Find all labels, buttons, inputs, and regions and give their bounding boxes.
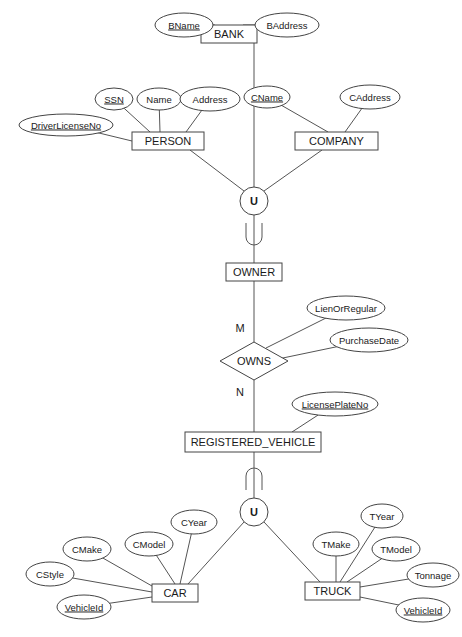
attribute-label: CYear: [181, 517, 207, 528]
union_vehicle[interactable]: U: [240, 498, 268, 526]
attribute-address[interactable]: Address: [180, 87, 240, 111]
attribute-tmake[interactable]: TMake: [313, 532, 359, 556]
cardinality-m: M: [235, 322, 244, 334]
attribute-label: CModel: [133, 539, 166, 550]
key-attribute-label: VehicleId: [404, 605, 443, 616]
attribute-licenseplateno[interactable]: LicensePlateNo: [292, 392, 378, 416]
attribute-cname[interactable]: CName: [244, 86, 290, 108]
entity-label: BANK: [214, 28, 245, 40]
entity-car[interactable]: CAR: [152, 584, 198, 602]
attribute-caddress[interactable]: CAddress: [340, 85, 400, 109]
attribute-vehicleid_truck[interactable]: VehicleId: [396, 598, 450, 622]
attribute-cmodel[interactable]: CModel: [125, 532, 173, 556]
attribute-label: LienOrRegular: [315, 303, 377, 314]
attribute-label: TModel: [380, 544, 412, 555]
entity-company[interactable]: COMPANY: [295, 132, 378, 150]
attribute-lienorregular[interactable]: LienOrRegular: [307, 296, 385, 320]
entity-label: COMPANY: [309, 135, 364, 147]
cardinality-n: N: [236, 386, 244, 398]
attribute-label: Tonnage: [415, 570, 451, 581]
relationship-owns[interactable]: OWNS: [220, 342, 288, 380]
er-diagram-canvas: BANKPERSONCOMPANYOWNERREGISTERED_VEHICLE…: [0, 0, 462, 637]
attribute-bname[interactable]: BName: [155, 13, 213, 37]
attribute-vehicleid_car[interactable]: VehicleId: [57, 595, 111, 619]
entity-label: OWNER: [233, 266, 275, 278]
connector-line: [264, 150, 322, 191]
attribute-label: PurchaseDate: [339, 335, 399, 346]
attribute-label: CAddress: [349, 92, 391, 103]
union-symbol: U: [250, 506, 258, 518]
attribute-driverlicenseno[interactable]: DriverLicenseNo: [19, 114, 113, 136]
union-symbol: U: [250, 195, 258, 207]
attribute-label: CMake: [72, 544, 102, 555]
attribute-cyear[interactable]: CYear: [171, 510, 217, 534]
attribute-tonnage[interactable]: Tonnage: [407, 563, 459, 587]
entity-label: PERSON: [145, 135, 192, 147]
attribute-cmake[interactable]: CMake: [63, 537, 111, 561]
attribute-label: BAddress: [266, 20, 307, 31]
key-attribute-label: VehicleId: [65, 602, 104, 613]
attribute-label: CStyle: [36, 569, 64, 580]
attribute-label: TYear: [370, 511, 395, 522]
connector-line: [190, 150, 244, 191]
attribute-tmodel[interactable]: TModel: [372, 537, 420, 561]
entity-truck[interactable]: TRUCK: [305, 582, 360, 600]
connector-line: [264, 522, 320, 582]
attribute-label: TMake: [321, 539, 350, 550]
union_owner[interactable]: U: [240, 187, 268, 215]
key-attribute-label: DriverLicenseNo: [31, 120, 101, 131]
attribute-tyear[interactable]: TYear: [361, 504, 403, 528]
attribute-purchasedate[interactable]: PurchaseDate: [330, 328, 408, 352]
attribute-baddress[interactable]: BAddress: [255, 13, 319, 37]
diagram-shapes: BANKPERSONCOMPANYOWNERREGISTERED_VEHICLE…: [19, 13, 459, 622]
attribute-label: Address: [193, 94, 228, 105]
attribute-name[interactable]: Name: [137, 88, 181, 110]
relationship-label: OWNS: [237, 355, 271, 367]
entity-person[interactable]: PERSON: [132, 132, 204, 150]
key-attribute-label: SSN: [104, 94, 124, 105]
attribute-label: Name: [146, 94, 171, 105]
entity-label: REGISTERED_VEHICLE: [191, 436, 316, 448]
entity-label: CAR: [163, 587, 186, 599]
entity-owner[interactable]: OWNER: [226, 263, 282, 281]
key-attribute-label: CName: [251, 92, 283, 103]
er-diagram: BANKPERSONCOMPANYOWNERREGISTERED_VEHICLE…: [0, 0, 462, 637]
key-attribute-label: LicensePlateNo: [302, 399, 369, 410]
attribute-ssn[interactable]: SSN: [95, 88, 133, 110]
entity-registered_vehicle[interactable]: REGISTERED_VEHICLE: [185, 432, 321, 452]
attribute-cstyle[interactable]: CStyle: [26, 562, 74, 586]
entity-label: TRUCK: [314, 585, 353, 597]
key-attribute-label: BName: [168, 20, 200, 31]
